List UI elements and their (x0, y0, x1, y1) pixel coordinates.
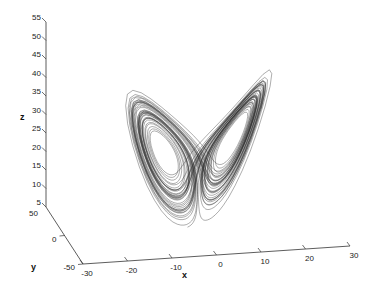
x-tick-mark (258, 248, 261, 252)
y-tick-label: 0 (52, 235, 57, 244)
y-tick-label: 50 (29, 209, 38, 218)
z-tick-mark (42, 129, 46, 133)
x-tick-mark (125, 257, 128, 261)
y-tick-mark (60, 236, 65, 237)
z-tick-mark (42, 55, 46, 59)
x-tick-label: -10 (170, 263, 182, 272)
z-tick-label: 35 (32, 87, 41, 96)
x-axis-ticks: -30-20-100102030 (80, 242, 359, 278)
x-tick-label: 0 (218, 260, 223, 269)
trajectory-layer (126, 70, 272, 227)
x-tick-label: 30 (350, 251, 359, 260)
z-tick-label: 40 (32, 69, 41, 78)
z-tick-mark (42, 148, 46, 152)
z-tick-label: 30 (32, 106, 41, 115)
x-tick-mark (214, 251, 217, 255)
x-tick-label: 10 (261, 257, 270, 266)
y-tick-label: -50 (63, 263, 75, 272)
x-axis-label: x (182, 270, 187, 280)
y-tick-mark (78, 264, 83, 265)
z-tick-label: 5 (37, 198, 42, 207)
z-tick-mark (42, 74, 46, 78)
x-tick-mark (303, 245, 306, 249)
lorenz-trajectory-line (126, 70, 272, 227)
z-tick-mark (42, 37, 46, 41)
z-tick-label: 45 (32, 50, 41, 59)
z-tick-label: 15 (32, 161, 41, 170)
z-tick-mark (42, 111, 46, 115)
y-axis-ticks: -50050 (29, 209, 83, 272)
z-axis-label: z (20, 112, 25, 122)
y-axis-label: y (31, 262, 36, 272)
z-tick-label: 20 (32, 143, 41, 152)
z-tick-mark (42, 185, 46, 189)
z-tick-mark (42, 92, 46, 96)
x-tick-mark (347, 242, 350, 246)
x-tick-label: 20 (305, 254, 314, 263)
z-tick-mark (42, 18, 46, 22)
z-tick-mark (42, 203, 46, 207)
z-tick-label: 10 (32, 180, 41, 189)
x-tick-mark (80, 260, 83, 264)
x-tick-label: -20 (126, 266, 138, 275)
x-tick-label: -30 (81, 269, 93, 278)
lorenz-3d-plot: 510152025303540455055 -50050 -30-20-1001… (0, 0, 380, 295)
z-tick-label: 50 (32, 32, 41, 41)
z-tick-label: 25 (32, 124, 41, 133)
z-axis-ticks: 510152025303540455055 (32, 13, 46, 207)
z-tick-mark (42, 166, 46, 170)
x-tick-mark (169, 254, 172, 258)
z-tick-label: 55 (32, 13, 41, 22)
